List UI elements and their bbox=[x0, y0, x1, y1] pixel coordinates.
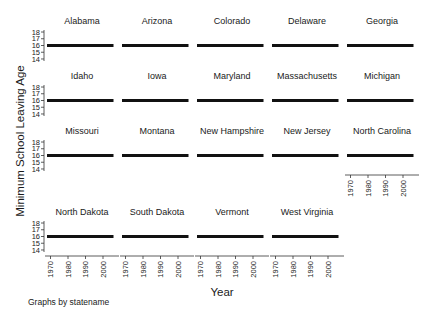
panel-new-jersey: New Jersey bbox=[272, 126, 339, 156]
x-tick-label: 1970 bbox=[46, 261, 55, 278]
x-tick-label: 1990 bbox=[81, 261, 90, 278]
panel-title: Montana bbox=[139, 126, 174, 136]
panel-title: Idaho bbox=[71, 71, 94, 81]
panel-michigan: Michigan bbox=[347, 71, 414, 101]
x-tick-label: 1990 bbox=[231, 261, 240, 278]
x-tick-label: 2000 bbox=[174, 261, 183, 278]
panel-title: New Hampshire bbox=[200, 126, 264, 136]
x-tick-label: 2000 bbox=[99, 261, 108, 278]
panel-title: Colorado bbox=[214, 16, 251, 26]
x-tick-label: 1970 bbox=[271, 261, 280, 278]
x-tick-label: 2000 bbox=[324, 261, 333, 278]
panel-vermont: Vermont1970198019902000 bbox=[195, 207, 269, 278]
x-axis-label: Year bbox=[210, 286, 233, 298]
panel-title: West Virginia bbox=[281, 207, 334, 217]
panel-idaho: Idaho1415161718 bbox=[32, 71, 114, 119]
panel-title: Iowa bbox=[147, 71, 166, 81]
panel-montana: Montana bbox=[122, 126, 189, 156]
y-axis-label: Minimum School Leaving Age bbox=[14, 65, 26, 217]
panels-group: Alabama1415161718ArizonaColoradoDelaware… bbox=[32, 16, 419, 278]
graphs-by-note: Graphs by statename bbox=[28, 297, 110, 307]
panel-title: Delaware bbox=[288, 16, 326, 26]
panel-iowa: Iowa bbox=[122, 71, 189, 101]
x-tick-label: 1980 bbox=[364, 180, 373, 197]
panel-maryland: Maryland bbox=[197, 71, 264, 101]
panel-south-dakota: South Dakota1970198019902000 bbox=[120, 207, 194, 278]
panel-north-dakota: North Dakota14151617181970198019902000 bbox=[32, 207, 119, 278]
y-tick-label: 18 bbox=[32, 219, 40, 228]
x-tick-label: 1970 bbox=[196, 261, 205, 278]
x-tick-label: 1990 bbox=[381, 180, 390, 197]
y-tick-label: 18 bbox=[32, 83, 40, 92]
x-tick-label: 1970 bbox=[346, 180, 355, 197]
panel-title: Arizona bbox=[142, 16, 173, 26]
x-tick-label: 2000 bbox=[249, 261, 258, 278]
y-tick-label: 18 bbox=[32, 28, 40, 37]
panel-georgia: Georgia bbox=[347, 16, 414, 46]
panel-delaware: Delaware bbox=[272, 16, 339, 46]
panel-west-virginia: West Virginia1970198019902000 bbox=[270, 207, 344, 278]
x-tick-label: 1980 bbox=[139, 261, 148, 278]
panel-arizona: Arizona bbox=[122, 16, 189, 46]
panel-title: Michigan bbox=[364, 71, 400, 81]
panel-north-carolina: North Carolina1970198019902000 bbox=[345, 126, 419, 197]
panel-title: Georgia bbox=[366, 16, 398, 26]
panel-title: Maryland bbox=[213, 71, 250, 81]
x-tick-label: 1990 bbox=[306, 261, 315, 278]
panel-missouri: Missouri1415161718 bbox=[32, 126, 114, 174]
panel-massachusetts: Massachusetts bbox=[272, 71, 339, 101]
panel-title: South Dakota bbox=[130, 207, 185, 217]
panel-title: Missouri bbox=[65, 126, 99, 136]
panel-colorado: Colorado bbox=[197, 16, 264, 46]
y-tick-label: 18 bbox=[32, 138, 40, 147]
panel-title: Massachusetts bbox=[277, 71, 338, 81]
x-tick-label: 1970 bbox=[121, 261, 130, 278]
small-multiples-chart: Alabama1415161718ArizonaColoradoDelaware… bbox=[0, 0, 430, 321]
x-tick-label: 1990 bbox=[156, 261, 165, 278]
panel-alabama: Alabama1415161718 bbox=[32, 16, 114, 64]
x-tick-label: 1980 bbox=[64, 261, 73, 278]
panel-new-hampshire: New Hampshire bbox=[197, 126, 264, 156]
panel-title: North Dakota bbox=[55, 207, 108, 217]
panel-title: New Jersey bbox=[283, 126, 331, 136]
x-tick-label: 1980 bbox=[214, 261, 223, 278]
panel-title: Alabama bbox=[64, 16, 100, 26]
x-tick-label: 2000 bbox=[399, 180, 408, 197]
panel-title: Vermont bbox=[215, 207, 249, 217]
panel-title: North Carolina bbox=[353, 126, 411, 136]
x-tick-label: 1980 bbox=[289, 261, 298, 278]
